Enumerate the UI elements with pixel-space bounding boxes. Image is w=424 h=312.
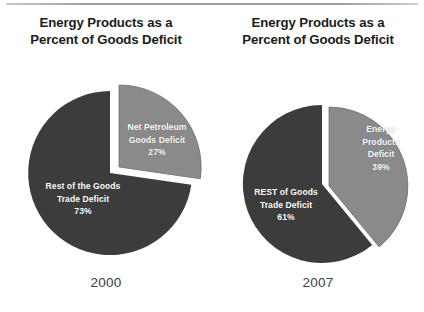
- chart-panel-2000: Energy Products as a Percent of Goods De…: [0, 0, 212, 312]
- pie-svg-2000: [0, 0, 212, 312]
- pie-chart-2007: Energy Products Deficit 39% REST of Good…: [212, 0, 424, 312]
- figure-root: Energy Products as a Percent of Goods De…: [0, 0, 424, 312]
- pie-chart-2000: Net Petroleum Goods Deficit 27% Rest of …: [0, 0, 212, 312]
- pie-slice-net-petroleum-goods-deficit-2000[interactable]: [119, 85, 201, 179]
- chart-panel-2007: Energy Products as a Percent of Goods De…: [212, 0, 424, 312]
- year-label-2000: 2000: [0, 275, 212, 290]
- year-label-2007: 2007: [212, 275, 424, 290]
- pie-svg-2007: [212, 0, 424, 312]
